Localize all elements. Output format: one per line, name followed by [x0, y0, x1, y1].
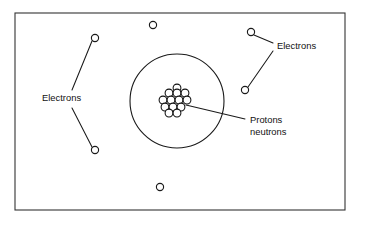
nucleon-circle: [183, 96, 191, 104]
label-protons: Protons: [250, 114, 283, 125]
diagram-canvas: Electrons Electrons Protons neutrons: [0, 0, 366, 225]
electron-upper-left: [91, 34, 98, 41]
label-neutrons: neutrons: [250, 126, 287, 137]
electron-upper-right: [247, 28, 254, 35]
nucleon-circle: [165, 109, 173, 117]
electron-top: [149, 21, 156, 28]
label-electrons-left: Electrons: [42, 92, 81, 103]
electron-bottom: [156, 183, 163, 190]
nucleon-circle: [173, 109, 181, 117]
electron-lower-left: [91, 146, 98, 153]
atom-diagram: Electrons Electrons Protons neutrons: [0, 0, 366, 225]
label-electrons-right: Electrons: [277, 40, 316, 51]
electron-lower-right: [241, 86, 248, 93]
